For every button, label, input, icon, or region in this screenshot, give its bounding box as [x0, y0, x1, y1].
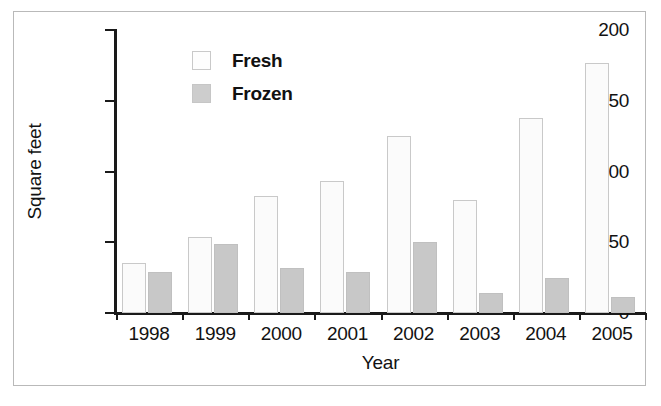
- y-tick-label-50: 50: [608, 231, 629, 253]
- figure: Square feet 0501001502001998199920002001…: [0, 0, 661, 406]
- x-tick-label-1999: 1999: [195, 323, 236, 345]
- x-tick-2002: [381, 313, 383, 320]
- y-axis-title: Square feet: [24, 30, 48, 313]
- legend-item-frozen: Frozen: [192, 77, 292, 110]
- y-tick-label-200: 200: [598, 19, 629, 41]
- legend: Fresh Frozen: [192, 44, 292, 110]
- bar-fresh-2003: [453, 200, 477, 313]
- legend-label-frozen: Frozen: [232, 83, 292, 105]
- bar-fresh-2004: [519, 118, 543, 313]
- frozen-swatch-icon: [192, 84, 211, 103]
- bar-frozen-2001: [346, 272, 370, 313]
- x-tick-1998: [116, 313, 118, 320]
- bar-fresh-2001: [320, 181, 344, 313]
- bar-frozen-2000: [280, 268, 304, 313]
- legend-label-fresh: Fresh: [232, 50, 282, 72]
- bar-fresh-1999: [188, 237, 212, 313]
- y-tick-100: [105, 171, 116, 173]
- x-tick-2003: [447, 313, 449, 320]
- x-tick-2005: [579, 313, 581, 320]
- fresh-swatch-icon: [192, 51, 211, 70]
- x-tick-label-2003: 2003: [459, 323, 500, 345]
- x-tick-label-2004: 2004: [525, 323, 566, 345]
- legend-item-fresh: Fresh: [192, 44, 292, 77]
- y-tick-150: [105, 100, 116, 102]
- x-axis-title: Year: [116, 352, 645, 374]
- x-tick-1999: [182, 313, 184, 320]
- y-tick-200: [105, 29, 116, 31]
- y-tick-0: [105, 312, 116, 314]
- x-tick-label-2002: 2002: [393, 323, 434, 345]
- y-tick-50: [105, 241, 116, 243]
- bar-fresh-2000: [254, 196, 278, 313]
- x-tick-2000: [248, 313, 250, 320]
- bar-frozen-2005: [611, 297, 635, 313]
- x-tick-label-2000: 2000: [261, 323, 302, 345]
- x-tick-end: [645, 313, 647, 320]
- x-tick-label-1998: 1998: [129, 323, 170, 345]
- bar-frozen-1998: [148, 272, 172, 313]
- x-tick-2001: [314, 313, 316, 320]
- bar-frozen-2002: [413, 242, 437, 313]
- bar-frozen-2003: [479, 293, 503, 313]
- bar-frozen-1999: [214, 244, 238, 313]
- bar-fresh-2002: [387, 136, 411, 313]
- x-tick-2004: [513, 313, 515, 320]
- x-tick-label-2005: 2005: [591, 323, 632, 345]
- bar-fresh-2005: [585, 63, 609, 313]
- bar-frozen-2004: [545, 278, 569, 313]
- bar-fresh-1998: [122, 263, 146, 313]
- x-tick-label-2001: 2001: [327, 323, 368, 345]
